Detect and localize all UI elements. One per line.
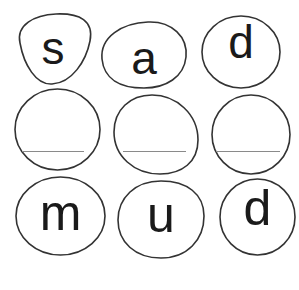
- letter-bubble-row1-col3: d: [201, 15, 281, 89]
- blank-bubble-row2-col1: [14, 88, 101, 171]
- letter-d: d: [201, 19, 281, 65]
- letter-bubble-row3-col1: m: [15, 176, 106, 256]
- letter-bubble-row3-col2: u: [117, 180, 205, 259]
- letter-bubble-row3-col3: d: [219, 178, 296, 256]
- bubble-outline: [112, 94, 199, 175]
- letter-m: m: [15, 188, 106, 238]
- blank-bubble-row2-col3: [211, 94, 291, 175]
- blank-bubble-row2-col2: [112, 94, 199, 175]
- write-in-line[interactable]: [123, 151, 186, 152]
- letter-bubble-row1-col2: a: [100, 21, 188, 89]
- letter-a: a: [100, 35, 188, 81]
- letter-u: u: [117, 190, 205, 240]
- write-in-line[interactable]: [216, 151, 280, 152]
- bubble-outline: [211, 94, 291, 175]
- bubble-outline: [14, 88, 101, 171]
- letter-d: d: [219, 183, 296, 233]
- write-in-line[interactable]: [22, 151, 84, 152]
- letter-s: s: [14, 25, 92, 71]
- letter-bubble-row1-col1: s: [14, 13, 92, 85]
